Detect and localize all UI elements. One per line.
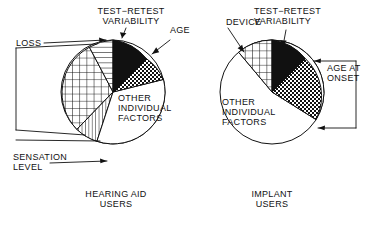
label-age-at-onset-right: AGE AT ONSET	[327, 63, 382, 83]
caption-hearing-aid-users: HEARING AID USERS	[70, 189, 162, 209]
label-loss-left: LOSS	[16, 38, 56, 48]
label-other-individual-factors-left: OTHER INDIVIDUAL FACTORS	[118, 93, 182, 123]
pie-implant-users	[220, 40, 324, 144]
label-other-individual-factors-right: OTHER INDIVIDUAL FACTORS	[222, 97, 286, 127]
pie-hearing-aid-users	[61, 40, 165, 144]
label-sensation-level-left: SENSATION LEVEL	[13, 152, 83, 172]
label-test-retest-variability-left: TEST−RETEST VARIABILITY	[86, 6, 176, 26]
label-age-left: AGE	[170, 25, 210, 35]
caption-implant-users: IMPLANT USERS	[228, 189, 316, 209]
label-test-retest-variability-right: TEST−RETEST VARIABILITY	[254, 6, 348, 26]
